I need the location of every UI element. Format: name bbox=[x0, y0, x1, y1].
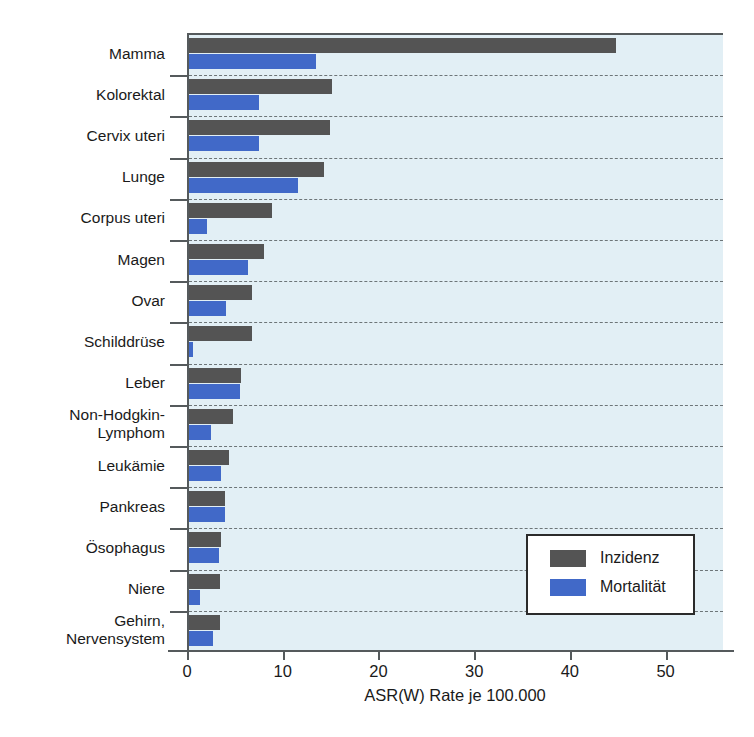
legend-label-inzidenz: Inzidenz bbox=[600, 549, 660, 567]
x-tick-mark bbox=[570, 651, 572, 660]
x-tick-mark bbox=[666, 651, 668, 660]
x-tick-label: 0 bbox=[165, 662, 209, 681]
x-tick-label: 10 bbox=[261, 662, 305, 681]
x-tick-mark bbox=[378, 651, 380, 660]
x-tick-mark bbox=[283, 651, 285, 660]
legend-swatch-mortalitaet bbox=[550, 579, 586, 596]
x-axis-ticks: 01020304050 bbox=[0, 0, 754, 737]
x-tick-label: 40 bbox=[548, 662, 592, 681]
x-tick-mark bbox=[187, 651, 189, 660]
x-tick-mark bbox=[474, 651, 476, 660]
x-tick-label: 30 bbox=[452, 662, 496, 681]
legend-item-inzidenz: Inzidenz bbox=[550, 549, 660, 567]
bar-chart: MammaKolorektalCervix uteriLungeCorpus u… bbox=[0, 0, 754, 737]
legend-label-mortalitaet: Mortalität bbox=[600, 578, 666, 596]
x-tick-label: 50 bbox=[644, 662, 688, 681]
legend-swatch-inzidenz bbox=[550, 550, 586, 567]
x-tick-label: 20 bbox=[356, 662, 400, 681]
legend-item-mortalitaet: Mortalität bbox=[550, 578, 666, 596]
x-axis-title: ASR(W) Rate je 100.000 bbox=[187, 686, 723, 705]
legend: Inzidenz Mortalität bbox=[526, 534, 695, 615]
